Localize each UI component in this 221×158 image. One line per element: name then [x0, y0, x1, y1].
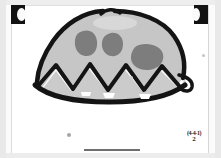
speck-right-edge [202, 54, 205, 57]
speck-lower-left [67, 133, 71, 137]
binder-clip-right-icon [194, 5, 208, 24]
scanner-bed-left [0, 0, 6, 158]
binder-clip-left-icon [11, 5, 25, 24]
dome-highlight [93, 16, 137, 30]
scan-edge-bar [84, 149, 140, 151]
spot-left [75, 30, 97, 56]
scanned-page: (4-4-1) 2 [0, 0, 221, 158]
spot-center [102, 33, 123, 56]
speck-mid [130, 76, 133, 79]
base-gap-one [103, 93, 115, 98]
scanner-bed-bottom [0, 153, 221, 158]
handwritten-annotation: (4-4-1) 2 [180, 130, 208, 144]
annotation-line-two: 2 [180, 136, 208, 143]
spot-right [131, 44, 163, 70]
base-gap-three [81, 92, 91, 96]
scanner-bed-right [215, 0, 221, 158]
base-gap-two [139, 94, 151, 99]
